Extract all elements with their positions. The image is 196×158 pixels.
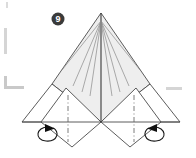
origami-step-figure: 9	[0, 0, 196, 158]
origami-diagram-svg: 9	[0, 0, 196, 158]
step-badge-label: 9	[55, 14, 60, 24]
step-number-badge: 9	[52, 13, 65, 26]
crop-mark-right-dash	[166, 87, 182, 90]
crop-mark-left-corner-horizontal	[4, 86, 24, 89]
crop-mark-left-vertical	[4, 28, 7, 54]
crop-mark-top-left-tick	[6, 2, 8, 8]
